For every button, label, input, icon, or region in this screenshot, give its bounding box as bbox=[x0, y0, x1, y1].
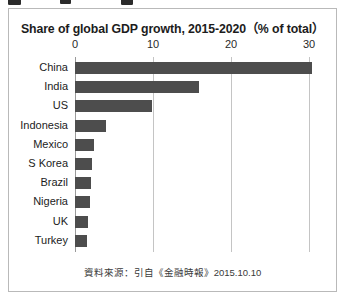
bar-row: Brazil bbox=[75, 177, 309, 189]
category-label-indonesia: Indonesia bbox=[20, 119, 68, 132]
bar-chart-plot-area: 0102030ChinaIndiaUSIndonesiaMexicoS Kore… bbox=[75, 57, 309, 252]
bar-row: Mexico bbox=[75, 139, 309, 151]
category-label-brazil: Brazil bbox=[40, 176, 68, 189]
bar-china bbox=[75, 62, 312, 74]
x-tick-label-30: 30 bbox=[303, 38, 315, 50]
bar-indonesia bbox=[75, 120, 106, 132]
bar-row: US bbox=[75, 100, 309, 112]
bar-uk bbox=[75, 216, 88, 228]
category-label-turkey: Turkey bbox=[35, 234, 68, 247]
cropped-text-artifacts bbox=[0, 0, 347, 7]
bar-row: UK bbox=[75, 216, 309, 228]
bar-mexico bbox=[75, 139, 94, 151]
bar-turkey bbox=[75, 235, 87, 247]
source-note: 資料來源：引自《金融時報》2015.10.10 bbox=[9, 265, 336, 279]
x-tick-label-0: 0 bbox=[72, 38, 78, 50]
bar-row: Indonesia bbox=[75, 120, 309, 132]
category-label-nigeria: Nigeria bbox=[33, 195, 68, 208]
x-tick-label-10: 10 bbox=[147, 38, 159, 50]
bar-s-korea bbox=[75, 158, 92, 170]
category-label-s-korea: S Korea bbox=[28, 157, 68, 170]
chart-title: Share of global GDP growth, 2015-2020（% … bbox=[9, 19, 336, 37]
bar-row: Turkey bbox=[75, 235, 309, 247]
bar-india bbox=[75, 81, 199, 93]
chart-figure: Share of global GDP growth, 2015-2020（% … bbox=[8, 8, 337, 292]
bar-brazil bbox=[75, 177, 91, 189]
bar-row: Nigeria bbox=[75, 196, 309, 208]
bar-row: S Korea bbox=[75, 158, 309, 170]
x-tick-label-20: 20 bbox=[225, 38, 237, 50]
bar-row: China bbox=[75, 62, 309, 74]
category-label-us: US bbox=[53, 99, 68, 112]
category-label-india: India bbox=[44, 80, 68, 93]
bar-nigeria bbox=[75, 196, 90, 208]
gridline-30 bbox=[309, 57, 310, 252]
bar-row: India bbox=[75, 81, 309, 93]
category-label-uk: UK bbox=[53, 215, 68, 228]
bar-us bbox=[75, 100, 152, 112]
category-label-mexico: Mexico bbox=[33, 138, 68, 151]
category-label-china: China bbox=[39, 61, 68, 74]
